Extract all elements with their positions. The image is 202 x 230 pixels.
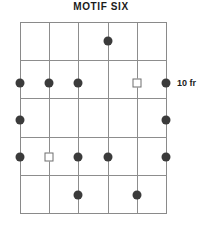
fret-line-3 [20,137,167,138]
filled-note-marker-s1-f4 [16,153,25,162]
filled-note-marker-s6-f2 [162,79,171,88]
filled-note-marker-s4-f4 [103,153,112,162]
filled-note-marker-s1-f2 [16,79,25,88]
string-line-2 [49,22,50,213]
filled-note-marker-s3-f2 [74,79,83,88]
fret-position-label: 10 fr [177,78,196,88]
open-note-marker-s5-f2 [132,79,141,88]
fret-line-1 [20,60,167,61]
fretboard-grid [0,0,202,230]
fret-line-0 [20,22,167,23]
filled-note-marker-s3-f5 [74,190,83,199]
filled-note-marker-s5-f5 [132,190,141,199]
string-line-4 [108,22,109,213]
fret-line-5 [20,213,167,214]
fret-line-4 [20,175,167,176]
filled-note-marker-s3-f4 [74,153,83,162]
open-note-marker-s2-f4 [45,153,54,162]
filled-note-marker-s6-f4 [162,153,171,162]
filled-note-marker-s4-f1 [103,37,112,46]
fret-line-2 [20,98,167,99]
filled-note-marker-s2-f2 [45,79,54,88]
filled-note-marker-s6-f3 [162,116,171,125]
chord-diagram-canvas: MOTIF SIX 10 fr [0,0,202,230]
string-line-3 [78,22,79,213]
string-line-5 [137,22,138,213]
filled-note-marker-s1-f3 [16,116,25,125]
